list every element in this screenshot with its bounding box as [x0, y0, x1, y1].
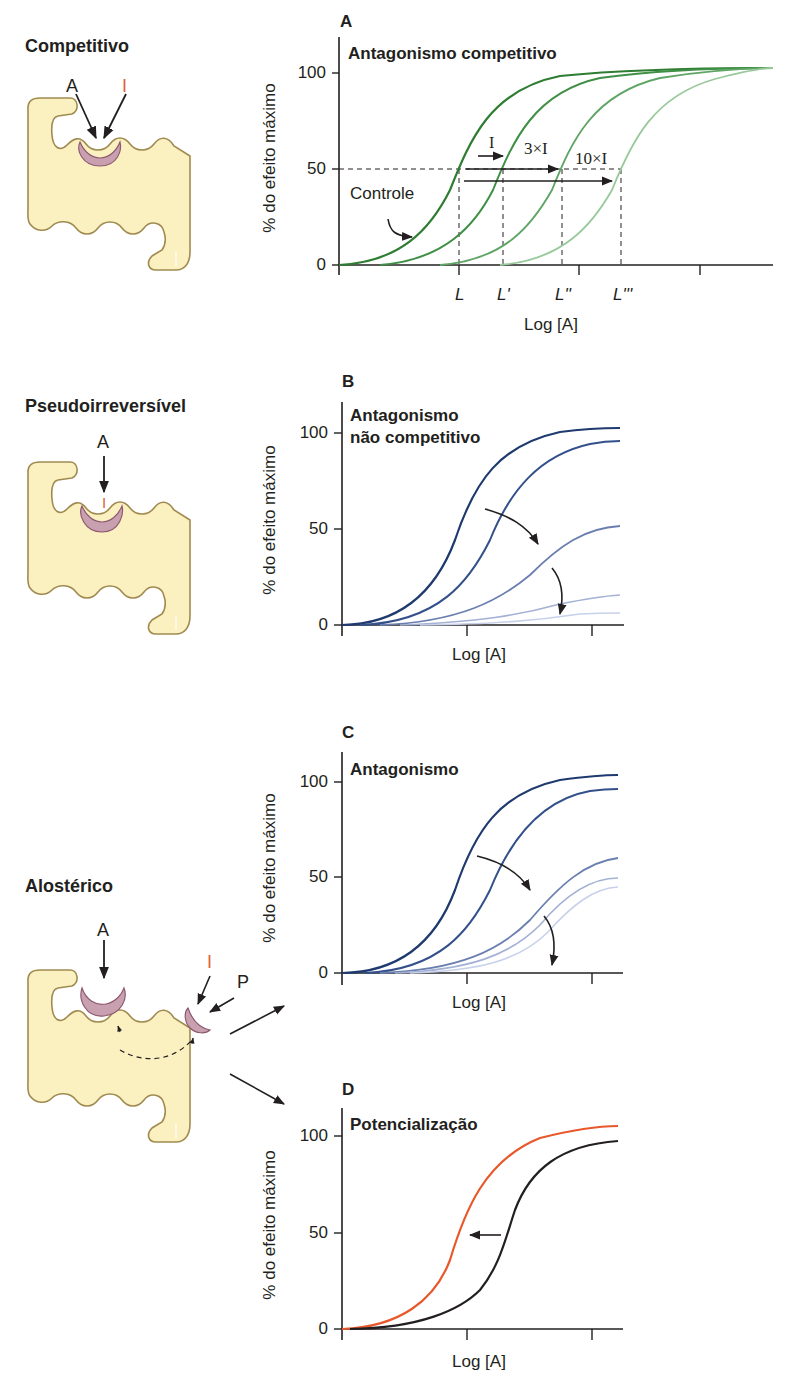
y-tick-100: 100 [288, 1126, 328, 1146]
figure-canvas [0, 0, 795, 1386]
y-tick-0: 0 [288, 615, 328, 635]
chart-a-plot [332, 37, 773, 275]
chart-d-plot [334, 1108, 623, 1340]
agonist-label: A [97, 432, 109, 453]
panel-letter-b: B [342, 372, 354, 392]
chart-c-plot [334, 752, 623, 985]
potentiator-label: P [237, 972, 249, 993]
y-tick-100: 100 [288, 772, 328, 792]
3xi-annotation: 3×I [524, 139, 548, 159]
chart-c-xlabel: Log [A] [452, 993, 506, 1013]
series-10xi [500, 68, 773, 265]
arrow-to-chart-d-icon [230, 1074, 284, 1104]
arrow-to-chart-c-icon [230, 1006, 284, 1034]
chart-c-ylabel: % do efeito máximo [260, 768, 280, 968]
chart-b-title-line1: Antagonismo [350, 405, 459, 427]
competitive-title: Competitivo [25, 36, 129, 57]
chart-b-title-line2: não competitivo [350, 427, 480, 449]
chart-a-xlabel: Log [A] [524, 315, 578, 335]
inhibitor-label: I [207, 952, 212, 973]
y-tick-50: 50 [288, 867, 328, 887]
y-tick-50: 50 [288, 519, 328, 539]
inhibitor-arrow-icon [198, 976, 210, 1004]
agonist-label: A [66, 76, 78, 97]
y-tick-100: 100 [286, 63, 326, 83]
ec50-label-l2: L'' [555, 285, 571, 305]
y-tick-0: 0 [288, 1319, 328, 1339]
chart-d-ylabel: % do efeito máximo [260, 1125, 280, 1325]
y-tick-0: 0 [286, 255, 326, 275]
panel-letter-c: C [342, 723, 354, 743]
potentiator-arrow-icon [210, 998, 234, 1012]
y-tick-0: 0 [288, 963, 328, 983]
ec50-label-l3: L''' [613, 285, 632, 305]
y-tick-50: 50 [288, 1223, 328, 1243]
i-annotation: I [489, 134, 494, 152]
controle-annotation: Controle [350, 184, 414, 204]
pseudoirreversible-receptor-schematic [28, 456, 190, 634]
series-potentiated [342, 1126, 618, 1329]
agonist-label: A [97, 920, 109, 941]
competitive-receptor-schematic [28, 94, 190, 270]
10xi-annotation: 10×I [575, 149, 607, 169]
inhibitor-label: I [122, 76, 127, 97]
chart-d-title: Potencialização [350, 1114, 478, 1136]
panel-letter-d: D [342, 1080, 354, 1100]
chart-a-ylabel: % do efeito máximo [260, 58, 280, 258]
ec50-label-l1: L' [497, 285, 510, 305]
chart-b-ylabel: % do efeito máximo [260, 420, 280, 620]
allosteric-receptor-schematic [28, 940, 284, 1142]
y-tick-100: 100 [288, 423, 328, 443]
inhibitor-arrow-icon [104, 94, 126, 138]
y-tick-50: 50 [286, 159, 326, 179]
inhibitor-label: I [102, 494, 106, 511]
chart-c-title: Antagonismo [350, 759, 459, 781]
pseudoirreversible-title: Pseudoirreversível [25, 396, 186, 417]
agonist-arrow-icon [76, 94, 96, 138]
ec50-label-l: L [455, 285, 464, 305]
panel-letter-a: A [340, 12, 352, 32]
chart-a-title: Antagonismo competitivo [348, 43, 557, 65]
chart-d-xlabel: Log [A] [452, 1352, 506, 1372]
allosteric-title: Alostérico [25, 876, 113, 897]
chart-b-xlabel: Log [A] [452, 645, 506, 665]
